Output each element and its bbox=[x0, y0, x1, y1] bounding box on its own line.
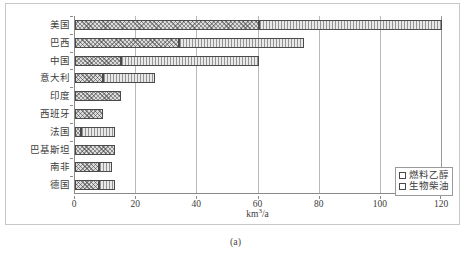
figure-caption: (a) bbox=[0, 236, 471, 247]
y-axis-category-label: 法国 bbox=[6, 127, 70, 137]
bar-row bbox=[75, 20, 442, 30]
y-axis-tick bbox=[70, 52, 73, 53]
y-axis-tick bbox=[70, 69, 73, 70]
y-axis-tick bbox=[70, 123, 73, 124]
bar-segment bbox=[75, 56, 121, 66]
bar-row bbox=[75, 145, 442, 155]
y-axis-tick bbox=[70, 176, 73, 177]
bar-segment bbox=[75, 20, 259, 30]
bar-segment bbox=[99, 180, 114, 190]
y-axis-tick bbox=[70, 87, 73, 88]
bar-segment bbox=[75, 180, 99, 190]
bar-segment bbox=[75, 162, 99, 172]
y-axis-tick bbox=[70, 158, 73, 159]
bar-row bbox=[75, 127, 442, 137]
bar-segment bbox=[75, 73, 103, 83]
y-axis-category-label: 西班牙 bbox=[6, 109, 70, 119]
figure-panel: 美国巴西中国意大利印度西班牙法国巴基斯坦南非德国 020406080100120… bbox=[5, 3, 460, 225]
bar-segment bbox=[259, 20, 443, 30]
bar-segment bbox=[99, 162, 111, 172]
x-axis-title-unit: km bbox=[246, 209, 258, 219]
y-axis-category-label: 巴基斯坦 bbox=[6, 145, 70, 155]
y-axis-category-label: 印度 bbox=[6, 91, 70, 101]
bar-row bbox=[75, 91, 442, 101]
y-axis-category-label: 意大利 bbox=[6, 73, 70, 83]
x-axis-title-suffix: /a bbox=[262, 209, 269, 219]
y-axis-category-label: 中国 bbox=[6, 56, 70, 66]
y-axis-tick bbox=[70, 141, 73, 142]
y-axis-category-label: 美国 bbox=[6, 20, 70, 30]
x-axis-title: km3/a bbox=[74, 207, 441, 219]
legend-item-label: 生物柴油 bbox=[409, 181, 449, 192]
legend-item: 生物柴油 bbox=[399, 181, 449, 192]
legend: 燃料乙醇生物柴油 bbox=[395, 167, 453, 196]
y-axis-category-label: 南非 bbox=[6, 162, 70, 172]
bar-segment bbox=[179, 38, 304, 48]
legend-item: 燃料乙醇 bbox=[399, 170, 449, 181]
y-axis-tick bbox=[70, 34, 73, 35]
y-axis-tick bbox=[70, 16, 73, 17]
bar-row bbox=[75, 162, 442, 172]
bar-segment bbox=[75, 145, 115, 155]
bar-row bbox=[75, 56, 442, 66]
bar-segment bbox=[121, 56, 259, 66]
bar-row bbox=[75, 38, 442, 48]
legend-swatch-icon bbox=[399, 172, 406, 179]
y-axis-tick bbox=[70, 105, 73, 106]
bar-segment bbox=[81, 127, 115, 137]
bar-row bbox=[75, 180, 442, 190]
bar-row bbox=[75, 109, 442, 119]
y-axis-category-label: 德国 bbox=[6, 180, 70, 190]
y-axis-labels: 美国巴西中国意大利印度西班牙法国巴基斯坦南非德国 bbox=[6, 16, 70, 194]
legend-swatch-icon bbox=[399, 183, 406, 190]
bar-segment bbox=[75, 38, 179, 48]
bar-row bbox=[75, 73, 442, 83]
legend-item-label: 燃料乙醇 bbox=[409, 170, 449, 181]
y-axis-category-label: 巴西 bbox=[6, 38, 70, 48]
bar-segment bbox=[103, 73, 155, 83]
bar-segment bbox=[75, 109, 103, 119]
plot-area bbox=[74, 16, 441, 194]
bar-segment bbox=[75, 91, 121, 101]
